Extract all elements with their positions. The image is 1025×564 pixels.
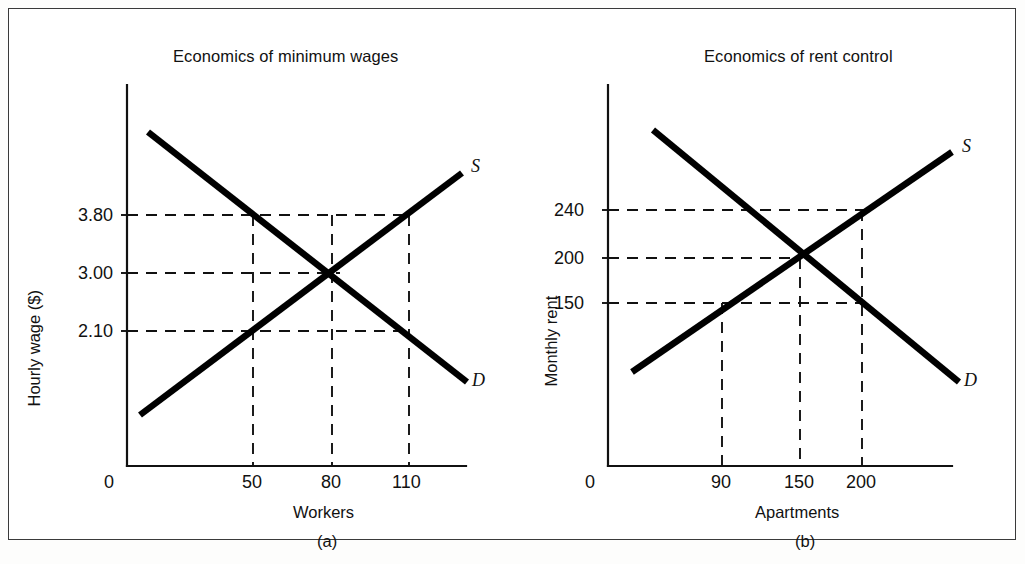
x-axis-title-b: Apartments [755,504,839,521]
y-tick-label-b-2: 150 [554,294,584,312]
figure-root: Economics of minimum wages Hourly wage (… [0,0,1025,564]
supply-curve-label-a: S [471,157,480,175]
chart-panel-a: Economics of minimum wages Hourly wage (… [0,0,512,564]
x-tick-label-b-0: 90 [711,473,731,491]
demand-curve-label-a: D [472,371,485,389]
x-tick-label-a-1: 80 [321,473,341,491]
panel-caption-b: (b) [795,533,815,550]
chart-panel-b: Economics of rent control Monthly rent [512,0,1025,564]
supply-curve-a [140,173,462,415]
x-tick-label-a-0: 50 [242,473,262,491]
y-tick-label-b-1: 200 [554,249,584,267]
y-tick-label-a-1: 3.00 [78,264,113,282]
origin-label-a: 0 [104,473,114,491]
x-axis-title-a: Workers [293,504,354,521]
y-tick-label-a-2: 2.10 [78,322,113,340]
x-tick-label-b-1: 150 [784,473,814,491]
demand-curve-label-b: D [964,371,977,389]
demand-curve-a [148,132,467,382]
origin-label-b: 0 [585,473,595,491]
y-tick-label-b-0: 240 [554,201,584,219]
supply-curve-label-b: S [962,137,971,155]
panel-caption-a: (a) [317,533,337,550]
y-tick-label-a-0: 3.80 [78,206,113,224]
x-tick-label-a-2: 110 [392,473,421,491]
x-tick-label-b-2: 200 [846,473,876,491]
